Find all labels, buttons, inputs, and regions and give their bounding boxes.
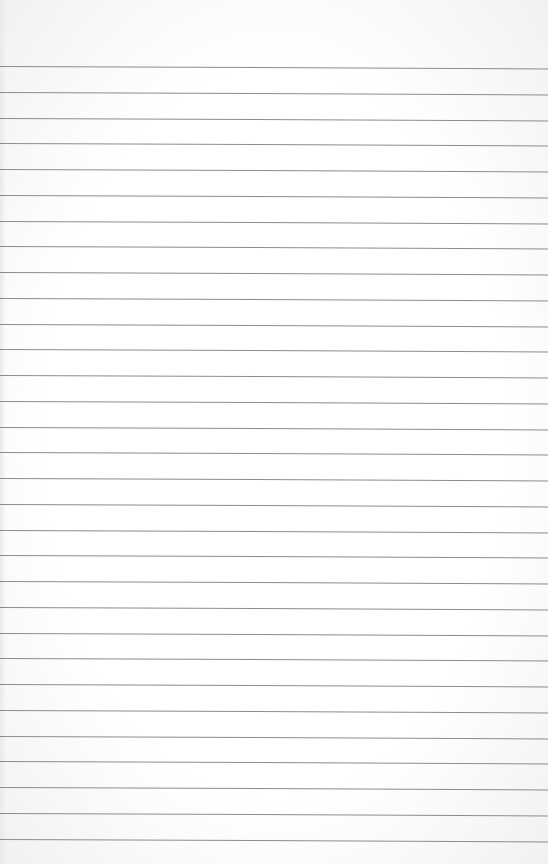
ruled-line — [0, 813, 548, 816]
ruled-line — [0, 710, 548, 713]
ruled-line — [0, 633, 548, 636]
ruled-line — [0, 427, 548, 430]
ruled-line — [0, 195, 548, 198]
ruled-line — [0, 478, 548, 481]
ruled-line — [0, 839, 548, 842]
ruled-line — [0, 607, 548, 610]
ruled-line — [0, 761, 548, 764]
ruled-line — [0, 787, 548, 790]
ruled-line — [0, 66, 548, 69]
ruled-line — [0, 452, 548, 455]
paper-edge-shadow — [0, 0, 6, 864]
ruled-line — [0, 118, 548, 121]
ruled-line — [0, 736, 548, 739]
lined-paper — [0, 0, 548, 864]
ruled-line — [0, 324, 548, 327]
ruled-line — [0, 298, 548, 301]
ruled-line — [0, 92, 548, 95]
ruled-line — [0, 169, 548, 172]
ruled-line — [0, 272, 548, 275]
ruled-line — [0, 246, 548, 249]
ruled-line — [0, 581, 548, 584]
ruled-line — [0, 684, 548, 687]
ruled-line — [0, 555, 548, 558]
ruled-line — [0, 375, 548, 378]
ruled-line — [0, 530, 548, 533]
ruled-line — [0, 221, 548, 224]
ruled-line — [0, 143, 548, 146]
ruled-line — [0, 401, 548, 404]
ruled-line — [0, 504, 548, 507]
ruled-line — [0, 658, 548, 661]
ruled-line — [0, 349, 548, 352]
